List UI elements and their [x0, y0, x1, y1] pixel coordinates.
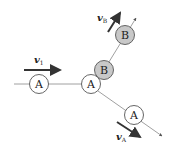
particle-a-initial: A	[30, 75, 49, 94]
particle-a-collision: A	[82, 75, 101, 94]
collision-diagram: v1 vB vA A B A B A	[0, 0, 176, 150]
label-vA: vA	[116, 131, 127, 143]
particle-b-final: B	[116, 26, 135, 45]
svg-text:B: B	[121, 29, 129, 42]
label-vB: vB	[97, 12, 108, 24]
label-v1: v1	[34, 54, 44, 66]
svg-text:A: A	[34, 78, 44, 91]
svg-text:A: A	[129, 109, 139, 122]
svg-text:B: B	[100, 64, 108, 77]
particle-a-final: A	[125, 106, 144, 125]
svg-text:A: A	[86, 78, 96, 91]
